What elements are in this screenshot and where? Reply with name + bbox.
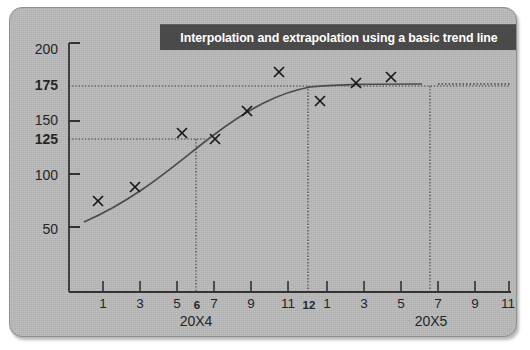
chart-panel: Interpolation and extrapolation using a … — [9, 7, 517, 337]
data-marker-6 — [274, 67, 284, 77]
y-axis-label-50: 50 — [12, 221, 58, 237]
x-axis-label-20x4-7: 7 — [203, 296, 225, 311]
x-axis-label-20x4-1: 1 — [92, 296, 114, 311]
x-axis-label-20x5-7: 7 — [427, 296, 449, 311]
y-axis-label-125: 125 — [12, 131, 58, 147]
x-axis-label-20x4-11: 11 — [277, 296, 299, 311]
data-marker-2 — [130, 182, 140, 192]
data-markers — [93, 67, 396, 206]
chart-title: Interpolation and extrapolation using a … — [180, 31, 497, 45]
x-axis-label-20x4-5: 5 — [166, 296, 188, 311]
x-axis-label-20x5-9: 9 — [464, 296, 486, 311]
data-marker-9 — [386, 72, 396, 82]
x-axis-group-label-20x5: 20X5 — [391, 313, 471, 329]
chart-title-banner: Interpolation and extrapolation using a … — [160, 24, 517, 50]
data-marker-4 — [210, 134, 220, 144]
chart-screenshot: Interpolation and extrapolation using a … — [0, 0, 530, 350]
y-axis-label-100: 100 — [12, 167, 58, 183]
x-axis-label-20x5-3: 3 — [353, 296, 375, 311]
x-axis-label-20x4-9: 9 — [240, 296, 262, 311]
x-axis-label-20x5-11: 11 — [497, 296, 517, 311]
data-marker-7 — [315, 96, 325, 106]
x-axis-label-20x5-1: 1 — [316, 296, 338, 311]
data-marker-1 — [93, 196, 103, 206]
data-marker-8 — [351, 78, 361, 88]
data-marker-3 — [177, 128, 187, 138]
y-axis-label-150: 150 — [12, 112, 58, 128]
x-axis-label-20x5-5: 5 — [390, 296, 412, 311]
trend-line — [84, 84, 422, 222]
x-axis-group-label-20x4: 20X4 — [156, 313, 236, 329]
y-axis-label-175: 175 — [12, 77, 58, 93]
y-axis-label-200: 200 — [12, 41, 58, 57]
chart-plot-area — [10, 8, 516, 336]
x-axis-label-20x4-3: 3 — [129, 296, 151, 311]
